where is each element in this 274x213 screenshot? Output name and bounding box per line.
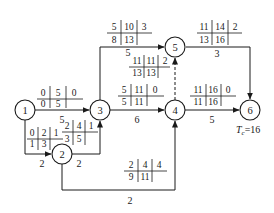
node-4: 4 xyxy=(165,100,185,120)
svg-text:4: 4 xyxy=(143,160,148,170)
svg-text:5: 5 xyxy=(56,99,61,109)
svg-text:5: 5 xyxy=(77,134,82,144)
svg-text:2: 2 xyxy=(59,149,64,160)
svg-text:13: 13 xyxy=(132,68,142,78)
duration-2-3: 2 xyxy=(77,158,82,169)
svg-text:13: 13 xyxy=(124,35,134,45)
params-4-5: 11 11 2 13 13 xyxy=(129,55,170,78)
svg-text:0: 0 xyxy=(153,85,158,95)
svg-text:10: 10 xyxy=(124,22,134,32)
duration-3-5: 5 xyxy=(126,47,131,58)
svg-text:3: 3 xyxy=(65,134,70,144)
svg-text:3: 3 xyxy=(42,139,47,149)
svg-text:11: 11 xyxy=(132,56,141,66)
svg-text:1: 1 xyxy=(89,121,94,131)
svg-text:11: 11 xyxy=(193,97,202,107)
svg-text:1: 1 xyxy=(22,105,27,116)
svg-text:2: 2 xyxy=(163,56,168,66)
svg-text:5: 5 xyxy=(122,85,127,95)
svg-text:1: 1 xyxy=(30,139,35,149)
duration-4-6: 5 xyxy=(210,114,215,125)
svg-text:1: 1 xyxy=(54,128,59,138)
svg-text:3: 3 xyxy=(97,105,102,116)
svg-text:2: 2 xyxy=(129,160,134,170)
svg-text:5: 5 xyxy=(172,42,177,53)
svg-text:3: 3 xyxy=(142,22,147,32)
svg-text:11: 11 xyxy=(134,85,143,95)
svg-text:13: 13 xyxy=(199,35,209,45)
params-2-3: 2 4 1 3 5 xyxy=(62,120,98,145)
node-1: 1 xyxy=(15,100,35,120)
svg-text:6: 6 xyxy=(247,105,252,116)
svg-text:4: 4 xyxy=(172,105,178,116)
svg-text:0: 0 xyxy=(226,85,231,95)
svg-text:11: 11 xyxy=(140,172,149,182)
svg-text:5: 5 xyxy=(56,88,61,98)
svg-text:2: 2 xyxy=(233,22,238,32)
node-3: 3 xyxy=(90,100,110,120)
duration-3-4: 6 xyxy=(135,114,140,125)
svg-text:16: 16 xyxy=(208,97,218,107)
svg-text:0: 0 xyxy=(41,88,46,98)
svg-text:4: 4 xyxy=(157,160,162,170)
params-3-5: 5 10 3 8 13 xyxy=(107,20,152,45)
duration-5-6: 3 xyxy=(215,48,220,59)
svg-text:2: 2 xyxy=(65,121,70,131)
total-duration: Tc=16 xyxy=(236,124,260,137)
svg-text:13: 13 xyxy=(146,68,156,78)
svg-text:14: 14 xyxy=(215,22,225,32)
svg-text:11: 11 xyxy=(134,97,143,107)
duration-1-2: 2 xyxy=(40,158,45,169)
svg-text:0: 0 xyxy=(30,128,35,138)
node-2: 2 xyxy=(52,144,72,164)
svg-text:2: 2 xyxy=(42,128,47,138)
svg-text:16: 16 xyxy=(215,35,225,45)
svg-text:11: 11 xyxy=(146,56,155,66)
svg-text:11: 11 xyxy=(199,22,208,32)
params-1-3: 0 5 0 0 5 xyxy=(37,86,83,109)
node-5: 5 xyxy=(165,37,185,57)
svg-text:16: 16 xyxy=(208,85,218,95)
svg-text:8: 8 xyxy=(112,35,117,45)
svg-text:9: 9 xyxy=(129,172,134,182)
svg-text:5: 5 xyxy=(112,22,117,32)
svg-text:0: 0 xyxy=(72,88,77,98)
params-5-6: 11 14 2 13 16 xyxy=(197,20,242,45)
svg-text:5: 5 xyxy=(122,97,127,107)
params-2-4: 2 4 4 9 11 xyxy=(124,159,167,182)
svg-text:0: 0 xyxy=(41,99,46,109)
params-4-6: 11 16 0 11 16 xyxy=(190,84,236,107)
params-3-4: 5 11 0 5 11 xyxy=(118,84,164,107)
edge-2-4 xyxy=(62,121,175,190)
network-diagram: 1 2 3 4 5 6 5 2 2 2 5 6 5 3 0 5 0 0 5 xyxy=(0,0,274,213)
svg-text:4: 4 xyxy=(77,121,82,131)
node-6: 6 xyxy=(240,100,260,120)
svg-text:11: 11 xyxy=(193,85,202,95)
duration-2-4: 2 xyxy=(128,195,133,206)
